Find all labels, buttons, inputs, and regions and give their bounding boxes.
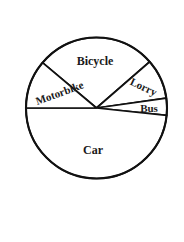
pie-label-bus: Bus <box>140 102 158 114</box>
pie-chart-container: BicycleLorryBusCarMotorbike <box>0 0 184 242</box>
pie-chart: BicycleLorryBusCarMotorbike <box>0 0 184 242</box>
pie-label-bicycle: Bicycle <box>77 54 114 68</box>
pie-label-car: Car <box>83 143 104 157</box>
